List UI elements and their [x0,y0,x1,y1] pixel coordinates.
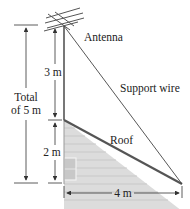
roof-label: Roof [110,134,133,146]
house-height-label: 2 m [43,146,61,158]
total-label-line1: Total [14,91,37,103]
antenna-label: Antenna [84,31,123,43]
antenna-support-diagram: Total of 5 m 3 m 2 m 4 m Antenna Support… [0,0,190,209]
ground-distance-label: 4 m [114,187,132,199]
window [64,158,76,180]
mast-height-label: 3 m [44,66,62,78]
support-wire-label: Support wire [120,82,180,95]
total-label-line2: of 5 m [11,104,41,116]
